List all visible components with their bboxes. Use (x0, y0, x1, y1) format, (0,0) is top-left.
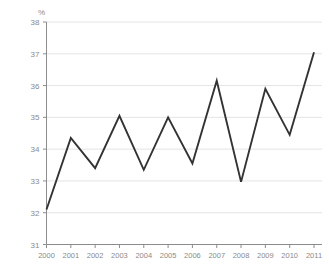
y-axis-tick-label: 38 (31, 18, 40, 27)
x-axis-tick-label: 2006 (184, 251, 201, 260)
y-axis-tick-label: 37 (31, 50, 40, 59)
x-axis-tick-label: 2002 (87, 251, 104, 260)
y-axis-tick-label: 35 (31, 113, 40, 122)
x-axis-tick-label: 2005 (160, 251, 177, 260)
y-axis-ticks (43, 22, 47, 245)
x-axis-tick-label: 2009 (257, 251, 274, 260)
y-axis-tick-label: 36 (31, 82, 40, 91)
y-axis-tick-labels: 3132333435363738 (31, 18, 40, 250)
x-axis-ticks (47, 245, 315, 249)
data-series-line (47, 52, 315, 209)
x-axis-tick-label: 2011 (306, 251, 322, 260)
x-axis-tick-label: 2008 (233, 251, 250, 260)
y-axis-tick-label: 31 (31, 241, 40, 250)
chart-canvas: 3132333435363738 20002001200220032004200… (0, 0, 329, 270)
x-axis-tick-label: 2000 (38, 251, 55, 260)
y-axis-tick-label: 33 (31, 177, 40, 186)
line-chart: % 3132333435363738 200020012002200320042… (0, 0, 329, 270)
y-axis-tick-label: 32 (31, 209, 40, 218)
x-axis-tick-label: 2003 (111, 251, 128, 260)
x-axis-tick-label: 2010 (281, 251, 298, 260)
y-axis-tick-label: 34 (31, 145, 40, 154)
x-axis-tick-label: 2001 (62, 251, 79, 260)
x-axis-tick-labels: 2000200120022003200420052006200720082009… (38, 251, 322, 260)
x-axis-tick-label: 2004 (135, 251, 152, 260)
x-axis-tick-label: 2007 (208, 251, 225, 260)
